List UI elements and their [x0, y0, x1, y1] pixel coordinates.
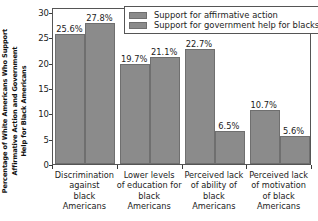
x-axis-category-line: Lower levels [113, 170, 186, 180]
legend-swatch-icon [129, 12, 147, 19]
legend-label: Support for government help for blacks [154, 20, 318, 30]
x-axis-category-line: Discrimination [48, 170, 121, 180]
x-axis-category-line: Americans [48, 201, 121, 211]
y-tick-label: 5 [35, 135, 49, 145]
x-axis-category-label: DiscriminationagainstblackAmericans [48, 170, 121, 212]
y-axis-title-line-1: Percentage of White Americans Who Suppor… [1, 28, 9, 192]
bar [185, 49, 215, 164]
bar-value-label: 25.6% [48, 24, 90, 34]
bar [85, 23, 115, 164]
x-axis-category-line: Americans [242, 201, 315, 211]
bar [55, 34, 85, 164]
y-tick-label: 10 [35, 109, 49, 119]
y-axis-title-line-3: Help for Black Americans [20, 28, 30, 192]
legend-item: Support for affirmative action [129, 10, 318, 20]
y-axis-ticks: 051015202530 [30, 0, 49, 221]
y-axis-title-line-2: Affirmative Action and Government [10, 28, 20, 192]
y-tick-mark [49, 89, 52, 90]
y-tick-mark [49, 64, 52, 65]
x-axis-category-line: black [113, 191, 186, 201]
bar [120, 64, 150, 164]
y-axis-title: Percentage of White Americans Who Suppor… [0, 0, 30, 221]
bar-chart-figure: Percentage of White Americans Who Suppor… [0, 0, 318, 221]
x-tick-mark [311, 165, 312, 169]
legend-swatch-icon [129, 22, 147, 29]
x-tick-mark [246, 165, 247, 169]
x-axis-category-line: black [48, 191, 121, 201]
bar-value-label: 10.7% [243, 100, 285, 110]
bar-value-label: 5.6% [273, 126, 315, 136]
x-axis-category-line: against [48, 180, 121, 190]
y-tick-label: 0 [35, 160, 49, 170]
bar-value-label: 27.8% [78, 13, 120, 23]
x-tick-mark [52, 165, 53, 169]
x-tick-mark [117, 165, 118, 169]
x-axis-category-line: Americans [113, 201, 186, 211]
x-axis-category-line: Americans [178, 201, 251, 211]
bar [150, 57, 180, 164]
y-tick-label: 30 [35, 8, 49, 18]
x-axis-category-line: of education for [113, 180, 186, 190]
chart-legend: Support for affirmative action Support f… [124, 6, 318, 34]
x-axis-category-line: of ability of [178, 180, 251, 190]
bar [215, 131, 245, 164]
legend-label: Support for affirmative action [154, 10, 278, 20]
x-axis-category-label: Perceived lackof ability ofblackAmerican… [178, 170, 251, 212]
bar-value-label: 22.7% [178, 39, 220, 49]
x-axis-category-label: Lower levelsof education forblackAmerica… [113, 170, 186, 212]
bar [250, 110, 280, 164]
y-tick-mark [49, 140, 52, 141]
x-axis-category-line: of black [242, 191, 315, 201]
y-tick-label: 15 [35, 84, 49, 94]
x-tick-mark [182, 165, 183, 169]
bar [280, 136, 310, 164]
legend-item: Support for government help for blacks [129, 20, 318, 30]
x-axis-category-line: black [178, 191, 251, 201]
y-tick-mark [49, 13, 52, 14]
y-tick-label: 25 [35, 33, 49, 43]
y-tick-mark [49, 114, 52, 115]
x-axis-category-line: of motivation [242, 180, 315, 190]
y-tick-label: 20 [35, 59, 49, 69]
x-axis-category-line: Perceived lack [242, 170, 315, 180]
x-axis-category-line: Perceived lack [178, 170, 251, 180]
bar-value-label: 6.5% [208, 121, 250, 131]
x-axis-category-label: Perceived lackof motivationof blackAmeri… [242, 170, 315, 212]
y-tick-mark [49, 38, 52, 39]
